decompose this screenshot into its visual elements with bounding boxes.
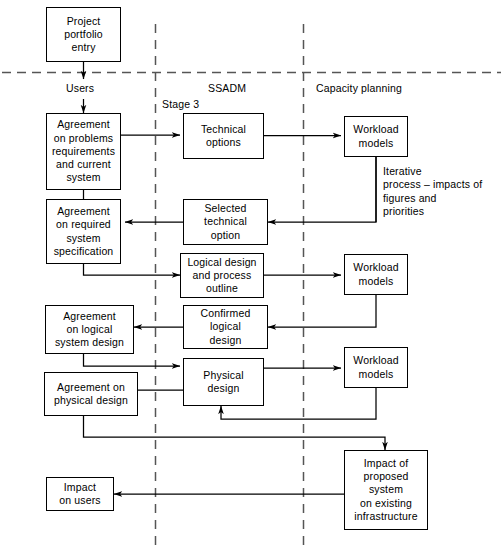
node-selected-technical-option[interactable]: Selected technical option: [183, 199, 268, 245]
node-workload-models-2[interactable]: Workload models: [344, 254, 408, 295]
lane-label-users: Users: [66, 82, 94, 95]
connector-agreement-physical-to-impact-system: [84, 416, 386, 450]
lane-label-ssadm: SSADM: [208, 82, 246, 95]
node-physical-design[interactable]: Physical design: [183, 358, 264, 406]
node-impact-on-users[interactable]: Impact on users: [46, 477, 114, 511]
node-workload-models-3[interactable]: Workload models: [344, 347, 408, 388]
node-workload-models-1[interactable]: Workload models: [344, 116, 408, 157]
node-agreement-logical-design[interactable]: Agreement on logical system design: [45, 305, 134, 354]
node-logical-design-process-outline[interactable]: Logical design and process outline: [180, 253, 264, 298]
connector-agreement-logical-to-physical-design: [84, 354, 181, 366]
node-technical-options[interactable]: Technical options: [183, 113, 264, 159]
annotation-iterative-process: Iterative process – impacts of figures a…: [383, 165, 503, 219]
connector-agreement-spec-to-logical-design: [84, 264, 181, 275]
lane-label-capacity-planning: Capacity planning: [316, 82, 402, 95]
node-agreement-problems[interactable]: Agreement on problems requirements and c…: [46, 113, 121, 190]
stage-label: Stage 3: [162, 98, 199, 111]
connector-workload-1-to-selected-option: [268, 157, 376, 222]
node-agreement-physical-design[interactable]: Agreement on physical design: [44, 372, 138, 416]
node-agreement-required-spec[interactable]: Agreement on required system specificati…: [46, 199, 121, 264]
flow-diagram: Users SSADM Capacity planning Stage 3 Pr…: [0, 0, 503, 553]
node-impact-proposed-system[interactable]: Impact of proposed system on existing in…: [344, 450, 428, 530]
node-project-portfolio-entry[interactable]: Project portfolio entry: [46, 7, 121, 62]
node-confirmed-logical-design[interactable]: Confirmed logical design: [183, 305, 268, 349]
connector-workload-2-to-confirmed-logical: [268, 295, 376, 327]
